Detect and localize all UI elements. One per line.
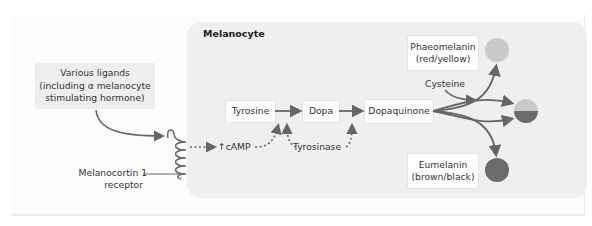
receptor-squiggle-icon: [168, 130, 186, 179]
tyrosinase-arrow-1: [287, 126, 296, 147]
cysteine-arrow: [445, 90, 474, 100]
tyrosinase-arrow-2: [346, 126, 352, 147]
pathway-arrows: [0, 0, 592, 226]
to-phaeomelanin-arrow: [433, 67, 496, 111]
camp-to-pathway-arrow: [255, 126, 278, 147]
ligand-arrow: [96, 110, 162, 136]
